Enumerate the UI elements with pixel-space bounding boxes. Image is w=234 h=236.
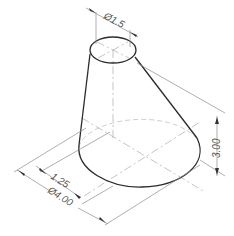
base-diameter-dimension [14, 128, 200, 225]
object-lines [79, 37, 200, 187]
base-centerline-b [82, 118, 205, 192]
base-hidden-arc [79, 119, 198, 147]
top-diameter-label: Ø1.5 [101, 10, 127, 31]
cone-frustum-drawing: Ø1.5 3.00 1.25 Ø4.00 [0, 0, 234, 236]
base-centerline-a [84, 122, 200, 196]
right-generator [135, 57, 197, 138]
base-visible-arc [79, 138, 200, 187]
height-ext-top [137, 63, 225, 113]
base-diameter-label: Ø4.00 [45, 184, 75, 209]
height-label: 3.00 [211, 138, 222, 158]
height-ext-bottom [200, 160, 225, 176]
